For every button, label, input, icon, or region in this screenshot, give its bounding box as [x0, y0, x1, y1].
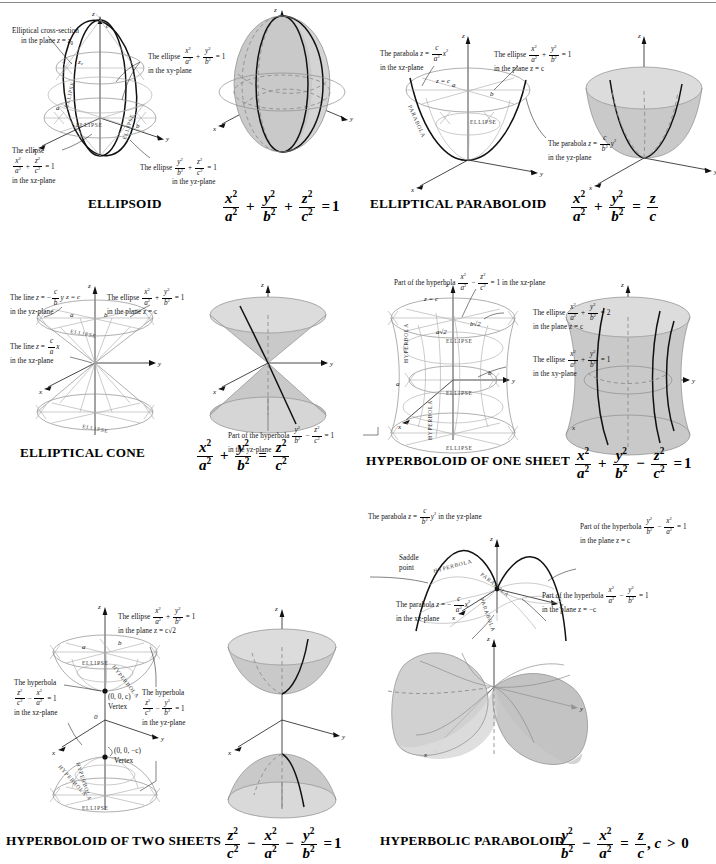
- axis-label-origin: 0: [94, 713, 98, 721]
- axis-label-x: x: [38, 388, 43, 396]
- annotation-line-1: The line: [10, 343, 34, 351]
- saddle-line-2: point: [399, 564, 414, 572]
- point-label-b: b: [490, 90, 494, 98]
- axis-label-x-solid: x: [212, 125, 217, 133]
- annotation-line-2: in the yz-plane: [172, 178, 215, 186]
- annotation-plane-c-hyperbola: Part of the hyperbola y2b2 − x2a2 = 1 in…: [580, 517, 687, 547]
- panel-hyperboloid-two-sheets: z y x 0 a b ELLIPSE ELLIPSE HYPERBOLA HY…: [0, 595, 358, 864]
- label-z-equals-c: z = c: [435, 77, 451, 85]
- panel-equation-hyperbolic-paraboloid: y2b2 − x2a2 = zc, c > 0: [558, 827, 689, 862]
- annotation-line-1: The ellipse: [118, 613, 150, 621]
- axis-label-y: y: [539, 170, 544, 178]
- annotation-xz-hyperbola: The hyperbola z2c2 − x2a2 = 1 in the xz-…: [14, 679, 57, 718]
- axis-label-x: x: [397, 423, 402, 431]
- annotation-line-2: in the plane z = c: [580, 537, 630, 545]
- annotation-xz-line: The line z = cax in the xz-plane: [10, 337, 60, 367]
- annotation-line-1: The parabola: [380, 50, 418, 58]
- annotation-line-1: The ellipse: [107, 294, 139, 302]
- point-label-a: a: [70, 311, 74, 319]
- annotation-line-1: The line: [10, 294, 34, 302]
- annotation-line-3: in the xz-plane: [14, 709, 57, 717]
- annotation-line-2: in the plane z = c√2: [118, 627, 176, 635]
- point-label-b: b: [136, 122, 140, 130]
- axis-label-z-solid: z: [637, 32, 641, 40]
- axis-label-y: y: [157, 360, 162, 368]
- curve-label-ellipse-bottom: ELLIPSE: [82, 805, 109, 811]
- annotation-yz-ellipse: The ellipse y2b2 + z2c2 = 1 in the yz-pl…: [140, 158, 217, 188]
- annotation-cross-section: Elliptical cross-section in the plane z …: [12, 27, 79, 48]
- axis-label-x-solid: x: [227, 749, 232, 757]
- axis-label-z: z: [87, 282, 91, 290]
- annotation-line-1: The ellipse: [12, 147, 44, 155]
- axis-label-y-solid: y: [341, 733, 346, 741]
- axis-label-z: z: [461, 32, 465, 40]
- annotation-yz-line: The line z = −cby in the yz-plane: [10, 288, 64, 318]
- annotation-line-1: Part of the hyperbola: [542, 592, 604, 600]
- panel-hyperboloid-one-sheet: z y x z = c a√2 b√2 a b ELLIPSE ELLIPSE …: [358, 255, 716, 485]
- annotation-yz-hyperbola: Part of the hyperbola y2b2 − z2c2 = 1 in…: [228, 426, 334, 456]
- axis-label-y: y: [160, 735, 165, 743]
- annotation-line-1: The ellipse: [140, 164, 172, 172]
- point-label-asqrt2: a√2: [436, 328, 447, 336]
- annotation-line-1: Part of the hyperbola: [394, 279, 456, 287]
- annotation-line-2: in the xy-plane: [533, 370, 577, 378]
- annotation-line-1: Part of the hyperbola: [228, 432, 290, 440]
- curve-label-ellipse-mid: ELLIPSE: [446, 390, 473, 396]
- axis-label-x: x: [410, 186, 415, 194]
- annotation-plane-ellipse-2: The ellipse x2a2 + y2b2 = 2 in the plane…: [533, 303, 610, 333]
- axis-label-y-solid: y: [349, 115, 354, 123]
- point-label-a: a: [452, 81, 456, 89]
- vertex-bottom-label: (0, 0, −c) Vertex: [114, 747, 141, 766]
- annotation-xz-parabola: The parabola z = − ca2x2 in the xz-plane: [396, 595, 470, 625]
- annotation-plane-ellipse: The ellipse x2a2 + y2b2 = 1 in the plane…: [107, 288, 184, 318]
- annotation-yz-hyperbola: The hyperbola z2c2 − y2b2 = 1 in the yz-…: [142, 689, 185, 728]
- annotation-xz-ellipse: The ellipse x2a2 + z2c2 = 1 in the xz-pl…: [12, 147, 55, 186]
- panel-equation-hyperboloid-one-sheet: x2a2 + y2b2 − z2c2 =1: [574, 447, 692, 482]
- curve-label-ellipse-bottom: ELLIPSE: [82, 423, 109, 434]
- panel-equation-ellipsoid: x2a2 + y2b2 + z2c2 =1: [222, 190, 340, 225]
- panel-hyperbolic-paraboloid: z y x HYPERBOLA PARABOLA PARABOLA: [358, 495, 716, 864]
- saddle-point-label: Saddle point: [399, 554, 419, 573]
- vertex-top-word: Vertex: [108, 703, 127, 711]
- panel-title-elliptical-paraboloid: ELLIPTICAL PARABOLOID: [370, 196, 547, 212]
- curve-label-ellipse-top: ELLIPSE: [70, 328, 97, 339]
- annotation-xz-parabola: The parabola z = ca2x2 in the xz-plane: [380, 44, 448, 74]
- annotation-line-2: in the yz-plane: [548, 154, 591, 162]
- annotation-line-3: in the xz-plane: [12, 177, 55, 185]
- vertex-bottom-coords: (0, 0, −c): [114, 747, 141, 755]
- annotation-line-2: in the plane z = −c: [542, 606, 596, 614]
- axis-label-z: z: [97, 603, 101, 611]
- axis-label-x: x: [51, 749, 56, 757]
- point-label-bsqrt2: b√2: [470, 320, 481, 328]
- saddle-line-1: Saddle: [399, 554, 419, 562]
- axis-label-y-solid: y: [691, 377, 696, 385]
- axis-label-y-solid: y: [329, 360, 334, 368]
- axis-label-z-solid: z: [260, 281, 264, 289]
- annotation-plane-ellipse: The ellipse x2a2 + y2b2 = 1 in the plane…: [118, 607, 195, 637]
- annotation-line-2: in the plane z = c: [533, 323, 583, 331]
- panel-title-hyperbolic-paraboloid: HYPERBOLIC PARABOLOID: [380, 833, 565, 849]
- point-label-a: a: [396, 380, 400, 388]
- curve-label-parabola-2: PARABOLA: [479, 597, 497, 632]
- annotation-line-1: The ellipse: [533, 309, 565, 317]
- annotation-tail: in the yz-plane: [438, 513, 481, 521]
- panel-ellipsoid: z y x c a b z₀ ELLIPSE ELLIPSE ELLIPSE: [0, 0, 358, 230]
- vertex-bottom-word: Vertex: [114, 757, 133, 765]
- point-label-b: b: [488, 369, 492, 377]
- axis-label-z: z: [489, 535, 493, 543]
- annotation-xy-ellipse: The ellipse x2a2 + y2b2 = 1 in the xy-pl…: [533, 350, 610, 380]
- curve-label-ellipse-top: ELLIPSE: [446, 338, 473, 344]
- annotation-xz-hyperbola: Part of the hyperbola x2a2 − z2c2 = 1 in…: [394, 273, 545, 293]
- label-z-equals-c: z = c: [65, 293, 81, 301]
- annotation-line-1: The ellipse: [148, 53, 180, 61]
- axis-label-z-solid: z: [486, 635, 490, 643]
- point-label-a: a: [56, 104, 60, 112]
- annotation-xy-ellipse: The ellipse x2a2 + y2b2 = 1 in the xy-pl…: [148, 47, 225, 77]
- point-label-z0: z₀: [77, 58, 84, 66]
- panel-elliptical-paraboloid: z y x a b z = c PARABOLA ELLIPSE: [358, 0, 716, 230]
- annotation-line-3: in the yz-plane: [142, 719, 185, 727]
- axis-label-z-solid: z: [273, 6, 277, 14]
- annotation-yz-parabola: The parabola z = cb2y2 in the yz-plane: [548, 134, 616, 164]
- elliptical-paraboloid-figure: z y x a b z = c PARABOLA ELLIPSE: [358, 0, 716, 195]
- vertex-top-label: (0, 0, c) Vertex: [108, 693, 131, 712]
